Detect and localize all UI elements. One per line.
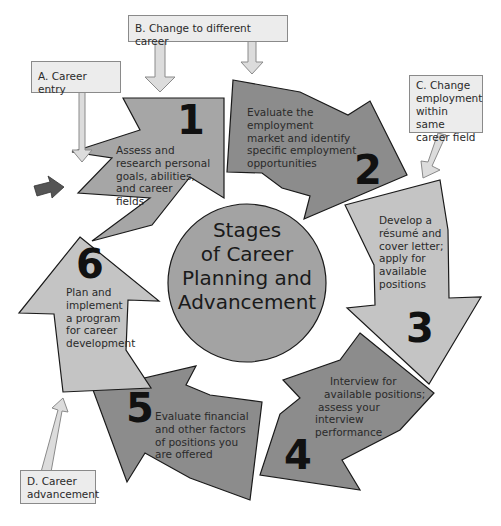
- stage-5-text: Evaluate financial and other factors of …: [155, 410, 249, 461]
- stage-4-line: interview: [315, 413, 425, 426]
- entry-d-arrow: [41, 398, 68, 472]
- stage-4-line: available positions;: [315, 388, 425, 401]
- stage-3-text: Develop a résumé and cover letter; apply…: [379, 214, 443, 291]
- stage-1-line: goals, abilities,: [116, 170, 210, 183]
- stage-2-text: Evaluate the employment market and ident…: [247, 106, 356, 170]
- title-line: of Career: [172, 242, 322, 266]
- stage-6-text: Plan and implement a program for career …: [66, 286, 135, 350]
- stage-5-line: of positions you: [155, 436, 249, 449]
- title-line: Planning and: [172, 266, 322, 290]
- stage-5-line: Evaluate financial: [155, 410, 249, 423]
- entry-box-d: D. Career advancement: [20, 470, 96, 504]
- stage-1-line: and career: [116, 182, 210, 195]
- stage-4-line: assess your: [315, 401, 425, 414]
- title-line: Advancement: [172, 290, 322, 314]
- title-line: Stages: [172, 218, 322, 242]
- stage-3-line: positions: [379, 278, 443, 291]
- entry-c-line: employment: [416, 92, 476, 105]
- stage-1-number: 1: [177, 100, 205, 140]
- stage-4-number: 4: [284, 435, 312, 475]
- stage-6-line: implement: [66, 299, 135, 312]
- entry-a-arrow: [72, 91, 92, 162]
- stage-4-line: Interview for: [315, 375, 425, 388]
- stage-3-line: available: [379, 265, 443, 278]
- stage-2-line: employment: [247, 119, 356, 132]
- pointer-arrow: [34, 176, 64, 198]
- stage-1-text: Assess and research personal goals, abil…: [116, 144, 210, 208]
- stage-6-line: for career: [66, 324, 135, 337]
- stage-3-line: Develop a: [379, 214, 443, 227]
- entry-d-line: advancement: [27, 488, 89, 501]
- stage-5-number: 5: [126, 388, 154, 428]
- stage-6-line: Plan and: [66, 286, 135, 299]
- stage-6-line: development: [66, 337, 135, 350]
- stage-3-line: résumé and: [379, 227, 443, 240]
- entry-c-line: C. Change: [416, 79, 476, 92]
- stage-4-line: performance: [315, 426, 425, 439]
- stage-3-line: apply for: [379, 252, 443, 265]
- entry-d-line: D. Career: [27, 475, 89, 488]
- stage-6-number: 6: [76, 244, 104, 284]
- stage-2-line: Evaluate the: [247, 106, 356, 119]
- entry-box-b: B. Change to different career: [128, 15, 288, 42]
- entry-b-label: B. Change to different career: [135, 22, 281, 48]
- stage-2-line: specific employment: [247, 144, 356, 157]
- stage-5-line: are offered: [155, 448, 249, 461]
- entry-a-label: A. Career entry: [38, 70, 114, 96]
- stage-1-line: research personal: [116, 157, 210, 170]
- stage-1-line: Assess and: [116, 144, 210, 157]
- diagram-title: Stages of Career Planning and Advancemen…: [172, 218, 322, 314]
- entry-c-line: within same: [416, 105, 476, 131]
- stage-4-text: Interview for available positions; asses…: [315, 375, 425, 439]
- stage-2-line: market and identify: [247, 132, 356, 145]
- entry-c-line: career field: [416, 131, 476, 144]
- stage-5-line: and other factors: [155, 423, 249, 436]
- stage-3-line: cover letter;: [379, 240, 443, 253]
- entry-box-c: C. Change employment within same career …: [409, 75, 483, 133]
- stage-1-line: fields: [116, 195, 210, 208]
- entry-box-a: A. Career entry: [31, 61, 121, 93]
- stage-2-line: opportunities: [247, 157, 356, 170]
- stage-2-number: 2: [354, 150, 382, 190]
- stage-3-number: 3: [406, 308, 434, 348]
- stage-6-line: a program: [66, 312, 135, 325]
